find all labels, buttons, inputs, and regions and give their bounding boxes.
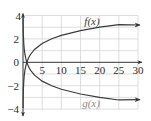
y-tick-label: 4 bbox=[16, 10, 22, 22]
curve-label-f: f(x) bbox=[84, 15, 100, 28]
x-tick-label: 30 bbox=[132, 64, 144, 76]
y-tick-label: 0 bbox=[14, 56, 20, 68]
y-tick-label: −2 bbox=[7, 80, 19, 92]
x-tick-labels: 5 10 15 20 25 30 bbox=[39, 64, 144, 76]
chart: 5 10 15 20 25 30 4 2 0 −2 −4 f(x) g(x) bbox=[0, 0, 151, 121]
y-tick-label: 2 bbox=[14, 33, 20, 45]
x-tick-label: 5 bbox=[39, 64, 45, 76]
y-tick-label: −4 bbox=[7, 103, 19, 115]
curve-g bbox=[23, 17, 140, 100]
x-tick-label: 20 bbox=[94, 64, 106, 76]
curve-label-g: g(x) bbox=[82, 97, 100, 110]
x-tick-label: 25 bbox=[113, 64, 125, 76]
x-tick-label: 15 bbox=[75, 64, 87, 76]
x-tick-label: 10 bbox=[56, 64, 68, 76]
y-tick-labels: 4 2 0 −2 −4 bbox=[7, 10, 21, 116]
